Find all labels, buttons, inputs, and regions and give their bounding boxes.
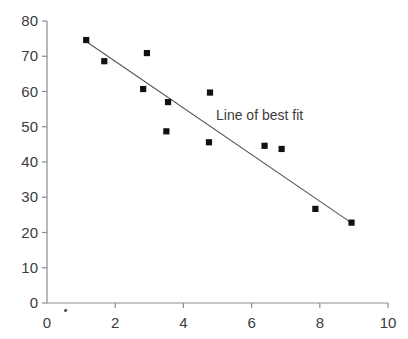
y-axis-tick-label: 50	[21, 119, 38, 134]
y-axis-tick-label: 0	[30, 295, 38, 310]
axes-group	[47, 21, 388, 303]
data-point-marker	[348, 220, 354, 226]
data-point-marker	[101, 58, 107, 64]
x-axis-tick-label: 0	[27, 315, 67, 330]
x-axis-tick-label: 4	[163, 315, 203, 330]
line-of-best-fit	[86, 41, 352, 223]
line-of-best-fit-label: Line of best fit	[216, 108, 303, 122]
stray-tick-mark	[64, 309, 68, 313]
y-axis-tick-label: 80	[21, 13, 38, 28]
data-point-marker	[207, 89, 213, 95]
data-point-marker	[261, 143, 267, 149]
data-point-marker	[140, 86, 146, 92]
data-point-marker	[165, 99, 171, 105]
scatter-chart: 01020304050607080 0246810 Line of best f…	[0, 0, 408, 339]
y-axis-tick-label: 40	[21, 154, 38, 169]
y-axis-tick-label: 30	[21, 189, 38, 204]
data-point-marker	[279, 146, 285, 152]
data-point-marker	[144, 50, 150, 56]
x-axis-ticks	[115, 303, 388, 308]
y-axis-ticks	[42, 21, 47, 303]
y-axis-tick-label: 60	[21, 84, 38, 99]
x-axis-tick-label: 2	[95, 315, 135, 330]
data-point-marker	[163, 128, 169, 134]
x-axis-tick-label: 10	[368, 315, 408, 330]
trend-line	[86, 41, 352, 223]
data-point-marker	[206, 139, 212, 145]
data-point-marker	[83, 37, 89, 43]
x-axis-tick-label: 6	[232, 315, 272, 330]
data-point-marker	[312, 206, 318, 212]
y-axis-tick-label: 10	[21, 260, 38, 275]
x-axis-tick-label: 8	[300, 315, 340, 330]
chart-canvas	[0, 0, 408, 339]
y-axis-tick-label: 20	[21, 225, 38, 240]
stray-mark	[64, 309, 68, 313]
y-axis-tick-label: 70	[21, 48, 38, 63]
